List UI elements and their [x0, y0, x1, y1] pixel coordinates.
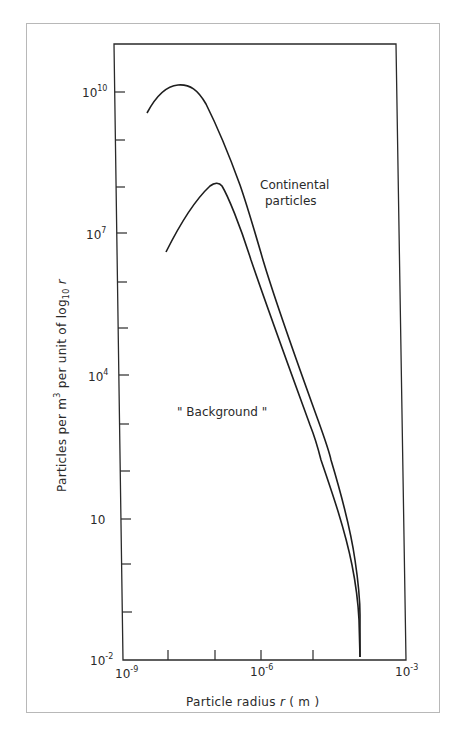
background-curve: [166, 183, 360, 657]
continental-particles-curve: [147, 85, 360, 657]
x-axis-title: Particle radius r ( m ): [186, 695, 319, 709]
x-tick-labels: 10-9 10-6 10-3: [115, 663, 418, 681]
y-tick-label-1e4: 104: [88, 368, 108, 384]
x-axis-ticks: [168, 650, 313, 660]
x-tick-label-1e-6: 10-6: [250, 663, 273, 679]
y-tick-label-1e7: 107: [86, 226, 106, 242]
continental-particles-label-line1: Continental: [260, 178, 329, 192]
y-tick-label-1e-2: 10-2: [90, 652, 113, 668]
plot-frame: [114, 44, 406, 660]
y-axis-title: Particles per m3 per unit of log10 r: [53, 278, 71, 492]
y-tick-labels: 1010 107 104 10 10-2: [82, 84, 113, 668]
x-tick-label-1e-3: 10-3: [395, 663, 418, 679]
x-tick-label-1e-9: 10-9: [115, 665, 138, 681]
background-label: " Background ": [177, 405, 267, 419]
y-tick-label-1e10: 1010: [82, 84, 107, 100]
y-axis-ticks: [115, 92, 132, 612]
y-tick-label-10: 10: [90, 513, 105, 527]
continental-particles-label-line2: particles: [265, 194, 317, 208]
chart-canvas: 1010 107 104 10 10-2 10-9 10-6 10-3 Cont…: [0, 0, 458, 748]
